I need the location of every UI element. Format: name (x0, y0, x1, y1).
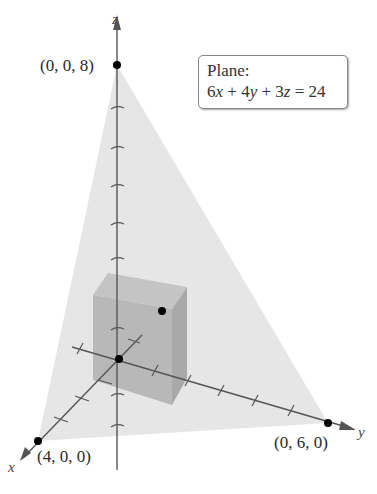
legend-equation: 6x + 4y + 3z = 24 (207, 81, 347, 102)
y-axis-arrow (339, 421, 356, 430)
legend-title: Plane: (207, 60, 347, 81)
y-axis-label: y (358, 425, 365, 440)
plane-legend: Plane: 6x + 4y + 3z = 24 (198, 55, 348, 109)
x-intercept-label: (4, 0, 0) (37, 448, 91, 465)
x-axis-label: x (8, 460, 15, 475)
z-axis-label: z (112, 12, 118, 27)
point-y-intercept (324, 419, 332, 427)
point-x-intercept (34, 437, 42, 445)
point-origin (115, 355, 123, 363)
y-intercept-label: (0, 6, 0) (274, 434, 328, 451)
z-intercept-label: (0, 0, 8) (40, 57, 94, 74)
point-box-corner (158, 307, 166, 315)
point-z-intercept (113, 61, 121, 69)
x-axis-arrow (20, 447, 31, 461)
